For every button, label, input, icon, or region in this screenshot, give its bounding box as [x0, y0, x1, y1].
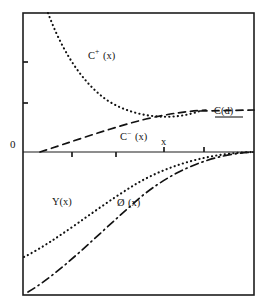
label-c-minus: C − (x): [120, 129, 148, 143]
label-c-plus-arg: (x): [103, 50, 116, 62]
label-y-of-x: Y(x): [52, 196, 72, 208]
label-c-plus: C + (x): [88, 47, 116, 62]
curve-c-plus: [48, 13, 200, 117]
label-phi-arg: (x): [128, 197, 141, 209]
label-c-minus-base: C: [120, 131, 127, 142]
label-c-minus-arg: (x): [135, 131, 148, 143]
plot-svg: 0 x C + (x) C − (x) C(d) Y(x) Ø (x): [0, 0, 265, 307]
plot-frame: [23, 13, 254, 295]
figure-container: 0 x C + (x) C − (x) C(d) Y(x) Ø (x): [0, 0, 265, 307]
label-c-minus-sup: −: [127, 129, 131, 138]
label-phi-glyph: Ø: [117, 197, 125, 208]
label-phi-of-x: Ø (x): [117, 197, 141, 209]
zero-axis-label: 0: [10, 138, 16, 150]
label-c-d: C(d): [214, 105, 234, 117]
x-marker-label: x: [161, 136, 167, 147]
label-c-plus-base: C: [88, 50, 95, 61]
curve-phi-of-x: [28, 152, 253, 292]
label-c-plus-sup: +: [95, 47, 99, 56]
